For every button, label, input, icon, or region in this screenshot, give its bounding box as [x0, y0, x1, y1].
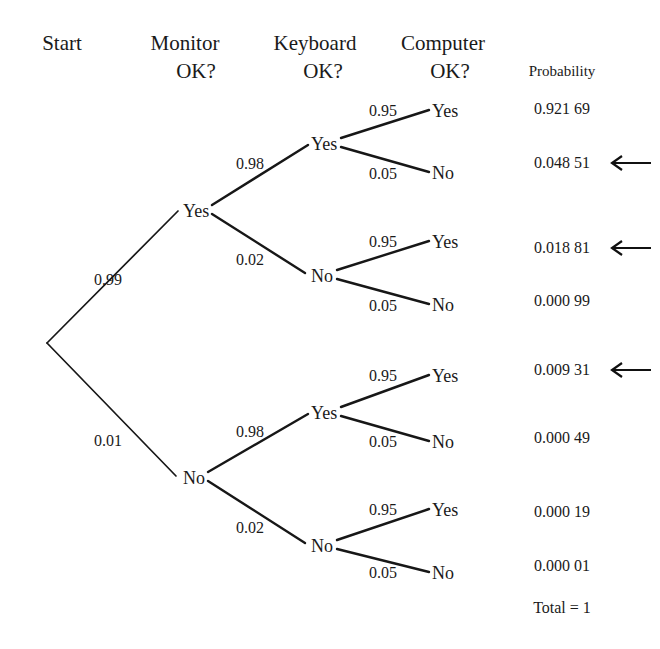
leaf-node-4: No: [432, 295, 454, 315]
node-keyboard-yes-1: Yes: [311, 134, 337, 154]
branch-prob-computer-5: 0.95: [369, 367, 397, 384]
branch-prob-keyboard-no-1: 0.02: [236, 251, 264, 268]
branch-prob-monitor-no: 0.01: [94, 432, 122, 449]
branch-prob-keyboard-yes-2: 0.98: [236, 423, 264, 440]
header-probability: Probability: [529, 63, 596, 79]
leaf-node-2: No: [432, 163, 454, 183]
header-monitor-line1: Monitor: [151, 31, 220, 55]
branch-prob-computer-1: 0.95: [369, 102, 397, 119]
branch-prob-computer-8: 0.05: [369, 564, 397, 581]
branch-prob-monitor-yes: 0.99: [94, 271, 122, 288]
leaf-node-7: Yes: [432, 500, 458, 520]
branch-prob-computer-3: 0.95: [369, 233, 397, 250]
outcome-prob-7: 0.000 19: [534, 503, 590, 520]
header-keyboard-line1: Keyboard: [274, 31, 357, 55]
branch-prob-computer-7: 0.95: [369, 501, 397, 518]
outcome-prob-2: 0.048 51: [534, 154, 590, 171]
branch-prob-computer-2: 0.05: [369, 165, 397, 182]
leaf-node-6: No: [432, 432, 454, 452]
header-start-line1: Start: [42, 31, 82, 55]
node-monitor-no: No: [183, 468, 205, 488]
branch-prob-keyboard-no-2: 0.02: [236, 519, 264, 536]
node-monitor-yes: Yes: [183, 201, 209, 221]
branch-prob-computer-4: 0.05: [369, 297, 397, 314]
outcome-prob-4: 0.000 99: [534, 292, 590, 309]
branch-prob-computer-6: 0.05: [369, 433, 397, 450]
branch-prob-keyboard-yes-1: 0.98: [236, 155, 264, 172]
header-monitor-line2: OK?: [176, 59, 216, 83]
outcome-prob-3: 0.018 81: [534, 239, 590, 256]
node-keyboard-no-1: No: [311, 266, 333, 286]
outcome-prob-1: 0.921 69: [534, 100, 590, 117]
node-keyboard-yes-2: Yes: [311, 403, 337, 423]
header-computer-line1: Computer: [401, 31, 485, 55]
leaf-node-1: Yes: [432, 101, 458, 121]
leaf-node-3: Yes: [432, 232, 458, 252]
total-probability-label: Total = 1: [533, 599, 591, 616]
leaf-node-5: Yes: [432, 366, 458, 386]
header-keyboard-line2: OK?: [303, 59, 343, 83]
probability-tree-figure: Start Monitor OK? Keyboard OK? Computer …: [0, 0, 660, 649]
header-computer-line2: OK?: [430, 59, 470, 83]
node-keyboard-no-2: No: [311, 536, 333, 556]
outcome-prob-6: 0.000 49: [534, 429, 590, 446]
leaf-node-8: No: [432, 563, 454, 583]
outcome-prob-8: 0.000 01: [534, 557, 590, 574]
outcome-prob-5: 0.009 31: [534, 361, 590, 378]
